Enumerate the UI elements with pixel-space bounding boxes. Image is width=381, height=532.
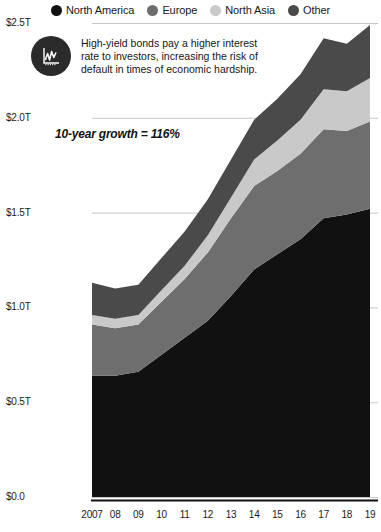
callout-text: High-yield bonds pay a higher interest r… [81,36,271,77]
x-axis-tick: 18 [341,510,352,520]
legend-label: Europe [162,5,197,16]
x-axis-tick: 19 [365,510,376,520]
line-chart-badge-icon [31,36,71,76]
x-axis-tick: 14 [249,510,260,520]
chart-callout: High-yield bonds pay a higher interest r… [31,36,271,77]
legend-label: North Asia [225,5,275,16]
stacked-area-svg [0,20,381,532]
growth-annotation: 10-year growth = 116% [55,127,180,141]
x-axis-tick: 10 [156,510,167,520]
plot-area: $0.0$0.5T$1.0T$1.5T$2.0T$2.5T 2007080910… [0,20,381,532]
y-axis-tick: $2.5T [6,18,31,28]
y-axis-tick: $1.5T [6,208,31,218]
x-axis-tick: 12 [202,510,213,520]
x-axis-tick: 13 [226,510,237,520]
x-axis-tick: 08 [110,510,121,520]
x-axis-tick: 15 [272,510,283,520]
x-axis-tick: 2007 [81,510,102,520]
legend-item-north-asia[interactable]: North Asia [210,5,275,16]
legend-item-europe[interactable]: Europe [147,5,197,16]
y-axis-tick: $1.0T [6,302,31,312]
legend-dot-icon [210,5,221,16]
legend-dot-icon [147,5,158,16]
legend-label: Other [303,5,330,16]
legend-item-north-america[interactable]: North America [51,5,134,16]
y-axis-tick: $2.0T [6,113,31,123]
x-axis-tick: 11 [180,510,190,520]
legend-item-other[interactable]: Other [288,5,330,16]
legend-dot-icon [288,5,299,16]
y-axis-tick: $0.0 [6,492,25,502]
x-axis-tick: 17 [318,510,329,520]
y-axis-tick: $0.5T [6,397,31,407]
legend-dot-icon [51,5,62,16]
x-axis-tick: 09 [133,510,144,520]
legend-label: North America [66,5,134,16]
high-yield-bond-area-chart: North AmericaEuropeNorth AsiaOther $0.0$… [0,0,381,532]
x-axis-tick: 16 [295,510,306,520]
chart-legend: North AmericaEuropeNorth AsiaOther [0,0,381,20]
